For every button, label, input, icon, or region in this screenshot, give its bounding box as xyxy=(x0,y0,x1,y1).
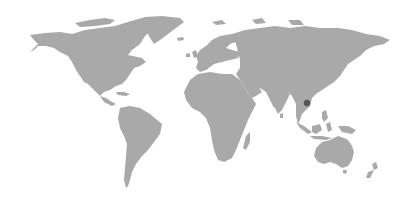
south-america xyxy=(118,106,162,188)
world-map xyxy=(0,0,415,205)
highlight-cambodia[interactable] xyxy=(304,100,310,106)
iceland xyxy=(177,37,184,41)
world-map-svg xyxy=(0,0,415,205)
sri-lanka xyxy=(280,113,283,118)
maritime-southeast-asia xyxy=(296,110,356,140)
north-america xyxy=(30,18,152,106)
india xyxy=(270,88,290,114)
australia xyxy=(314,136,354,168)
tasmania xyxy=(343,170,347,174)
madagascar xyxy=(243,132,250,150)
southeast-asia xyxy=(296,94,312,124)
europe xyxy=(186,34,240,72)
new-zealand xyxy=(366,162,378,178)
